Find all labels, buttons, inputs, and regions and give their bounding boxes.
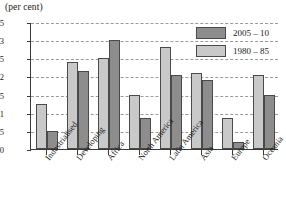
bar-1980-85 [222,118,233,149]
bar-chart: (per cent) 00.511.522.533.5 Industrialis… [0,0,286,222]
legend-swatch-1980-85 [196,45,226,57]
bar-2005-10 [202,80,213,149]
bar-1980-85 [129,95,140,149]
y-tick-label: 1.5 [0,91,4,101]
bar-2005-10 [109,40,120,149]
y-tick-label: 0.5 [0,127,4,137]
y-tick-label: 3 [0,36,4,46]
bar-1980-85 [253,75,264,149]
legend-item: 2005 – 10 [196,26,269,40]
bar-group [31,23,62,149]
y-tick-label: 2 [0,72,4,82]
y-tick-label: 0 [0,145,4,155]
y-tick-label: 3.5 [0,18,4,28]
legend-swatch-2005-10 [196,27,226,39]
legend-label: 1980 – 85 [233,46,269,56]
legend-item: 1980 – 85 [196,44,269,58]
chart-unit-title: (per cent) [5,2,43,12]
y-tick-label: 1 [0,109,4,119]
y-tick-label: 2.5 [0,54,4,64]
bar-group [124,23,155,149]
bar-1980-85 [36,104,47,149]
chart-legend: 2005 – 10 1980 – 85 [196,26,269,62]
y-tick-mark [27,150,31,151]
legend-label: 2005 – 10 [233,28,269,38]
